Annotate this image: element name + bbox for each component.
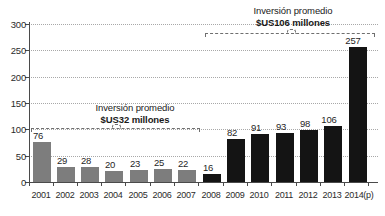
bar-value-2004: 20	[96, 159, 124, 170]
x-tick-mark-7	[198, 182, 199, 186]
y-tick-label-200: 200	[0, 72, 26, 83]
y-tick-label-150: 150	[0, 98, 26, 109]
bar-value-2010: 91	[242, 122, 270, 133]
x-tick-mark-11	[296, 182, 297, 186]
bar-2005[interactable]	[130, 170, 148, 182]
bar-2002[interactable]	[57, 167, 75, 182]
bar-value-2007: 22	[169, 158, 197, 169]
annotation-average-2008-2014-line2: $US106 millones	[210, 17, 376, 29]
bar-2008[interactable]	[203, 174, 221, 182]
bracket-notch	[287, 29, 296, 34]
bar-2006[interactable]	[154, 169, 172, 182]
bracket-average-2001-2007	[31, 124, 200, 131]
x-axis-line	[29, 182, 378, 183]
bar-2010[interactable]	[251, 134, 269, 182]
y-tick-label-100: 100	[0, 124, 26, 135]
x-tick-mark-10	[271, 182, 272, 186]
bracket-right-cap	[199, 128, 200, 132]
bar-2014[interactable]	[349, 47, 367, 182]
bar-2012[interactable]	[300, 130, 318, 182]
bar-value-2001: 76	[24, 130, 52, 141]
x-tick-mark-3	[101, 182, 102, 186]
bar-2011[interactable]	[276, 133, 294, 182]
bracket-right-cap	[374, 33, 375, 37]
bar-value-2013: 106	[315, 114, 343, 125]
bracket-average-2008-2014	[205, 29, 375, 36]
annotation-average-2001-2007-line1: Inversión promedio	[55, 102, 215, 114]
bar-2004[interactable]	[105, 171, 123, 182]
annotation-average-2001-2007: Inversión promedio $US32 millones	[55, 102, 215, 125]
x-tick-mark-14	[368, 182, 369, 186]
x-tick-mark-9	[247, 182, 248, 186]
y-tick-label-300: 300	[0, 19, 26, 30]
x-tick-mark-1	[53, 182, 54, 186]
bracket-left-cap	[31, 128, 32, 132]
y-tick-label-0: 0	[0, 177, 26, 188]
annotation-average-2008-2014-line1: Inversión promedio	[210, 5, 376, 17]
x-tick-mark-0	[29, 182, 30, 186]
x-tick-label-2014: 2014(p)	[335, 190, 383, 200]
y-tick-label-50: 50	[0, 151, 26, 162]
bar-2013[interactable]	[324, 126, 342, 182]
bar-2009[interactable]	[227, 139, 245, 182]
bar-value-2008: 16	[194, 162, 222, 173]
bar-chart: 300 250 200 150 100 50 0 76 29 28 20 23 …	[0, 0, 385, 216]
x-tick-mark-8	[223, 182, 224, 186]
x-tick-mark-5	[150, 182, 151, 186]
y-tick-label-250: 250	[0, 45, 26, 56]
x-tick-mark-4	[125, 182, 126, 186]
x-tick-mark-12	[320, 182, 321, 186]
bracket-left-cap	[205, 33, 206, 37]
x-tick-mark-13	[344, 182, 345, 186]
bracket-notch	[112, 124, 121, 129]
x-tick-mark-2	[77, 182, 78, 186]
x-tick-mark-6	[174, 182, 175, 186]
bar-value-2014: 257	[339, 35, 367, 46]
annotation-average-2008-2014: Inversión promedio $US106 millones	[210, 5, 376, 28]
